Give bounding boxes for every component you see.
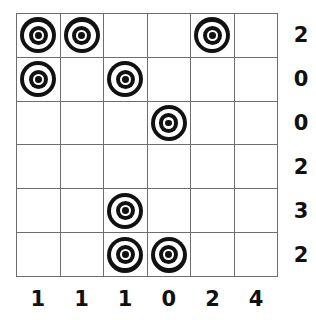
column-clue-2: 1 [103, 277, 147, 320]
row-clue-4: 3 [278, 189, 316, 233]
column-clue-labels: 111024 [16, 277, 278, 320]
bullseye-token-icon [107, 193, 143, 229]
row-clue-3: 2 [278, 145, 316, 189]
column-clue-4: 2 [191, 277, 235, 320]
token-core-dot [122, 207, 129, 214]
row-clue-2: 0 [278, 101, 316, 145]
bullseye-token-icon [107, 61, 143, 97]
grid-cell[interactable] [104, 189, 148, 233]
grid-cell[interactable] [235, 14, 279, 58]
grid-cell[interactable] [104, 14, 148, 58]
grid-cell[interactable] [191, 189, 235, 233]
grid-cell[interactable] [148, 145, 192, 189]
bullseye-token-icon [20, 61, 56, 97]
token-core-dot [122, 251, 129, 258]
grid-cell[interactable] [235, 58, 279, 102]
grid-cell[interactable] [191, 145, 235, 189]
column-clue-5: 4 [234, 277, 278, 320]
grid-cell[interactable] [17, 233, 61, 277]
row-clue-0: 2 [278, 13, 316, 57]
bullseye-token-icon [20, 17, 56, 53]
grid-cell[interactable] [61, 145, 105, 189]
bullseye-token-icon [107, 237, 143, 273]
column-clue-3: 0 [147, 277, 191, 320]
grid-cell[interactable] [104, 145, 148, 189]
bullseye-token-icon [194, 17, 230, 53]
grid-cell[interactable] [148, 58, 192, 102]
row-clue-5: 2 [278, 233, 316, 277]
grid-cell[interactable] [61, 233, 105, 277]
bullseye-token-icon [151, 237, 187, 273]
column-clue-1: 1 [60, 277, 104, 320]
grid-cell[interactable] [235, 189, 279, 233]
grid-cell[interactable] [61, 189, 105, 233]
grid-cell[interactable] [191, 233, 235, 277]
grid-cell[interactable] [104, 233, 148, 277]
column-clue-0: 1 [16, 277, 60, 320]
grid-cell[interactable] [148, 189, 192, 233]
grid-cell[interactable] [235, 145, 279, 189]
grid-cell[interactable] [191, 14, 235, 58]
grid-cell[interactable] [61, 58, 105, 102]
grid-cell[interactable] [191, 58, 235, 102]
token-core-dot [35, 32, 42, 39]
grid-cell[interactable] [148, 14, 192, 58]
token-core-dot [78, 32, 85, 39]
token-core-dot [122, 76, 129, 83]
bullseye-token-icon [64, 17, 100, 53]
puzzle-root: 200232 111024 [0, 0, 316, 320]
grid-cell[interactable] [61, 102, 105, 146]
token-core-dot [209, 32, 216, 39]
row-clue-1: 0 [278, 57, 316, 101]
puzzle-grid[interactable] [16, 13, 278, 277]
grid-cell[interactable] [17, 58, 61, 102]
grid-cell[interactable] [17, 14, 61, 58]
grid-cell[interactable] [17, 189, 61, 233]
grid-cell[interactable] [235, 102, 279, 146]
token-core-dot [35, 76, 42, 83]
bullseye-token-icon [151, 105, 187, 141]
grid-cell[interactable] [61, 14, 105, 58]
grid-cell[interactable] [17, 102, 61, 146]
grid-cell[interactable] [191, 102, 235, 146]
grid-cell[interactable] [148, 102, 192, 146]
grid-cell[interactable] [17, 145, 61, 189]
grid-cell[interactable] [104, 58, 148, 102]
grid-cell[interactable] [235, 233, 279, 277]
grid-cell[interactable] [148, 233, 192, 277]
row-clue-labels: 200232 [278, 13, 316, 277]
grid-cell[interactable] [104, 102, 148, 146]
